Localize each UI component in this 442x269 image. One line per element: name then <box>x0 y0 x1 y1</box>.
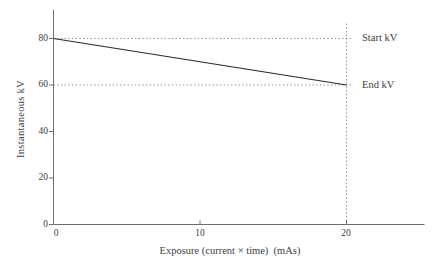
y-axis-title: Instantaneous kV <box>15 80 26 158</box>
x-tick-label-10: 10 <box>185 228 215 239</box>
y-tick-label-20: 20 <box>18 172 48 183</box>
x-axis-title: Exposure (current × time) (mAs) <box>90 244 370 257</box>
kv-exposure-chart: 80 60 40 20 0 0 10 20 Exposure (current … <box>0 0 442 269</box>
x-tick-label-20: 20 <box>331 228 361 239</box>
y-tick-label-80: 80 <box>18 33 48 44</box>
data-line <box>54 39 347 86</box>
annotation-start-kv: Start kV <box>362 32 397 44</box>
x-tick-label-0: 0 <box>41 228 71 239</box>
annotation-end-kv: End kV <box>362 79 394 91</box>
